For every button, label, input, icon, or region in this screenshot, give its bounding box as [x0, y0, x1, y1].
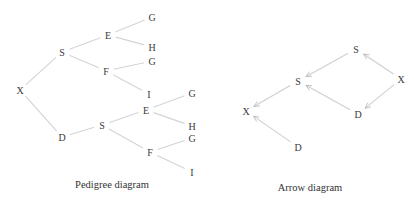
pedigree-edge [157, 155, 185, 168]
arrow-edge [365, 85, 394, 109]
arrow-node-d: D [354, 109, 361, 120]
pedigree-node-e: E [143, 105, 149, 116]
pedigree-edge [158, 141, 185, 150]
pedigree-node-h: H [188, 121, 195, 132]
arrow-caption: Arrow diagram [278, 182, 342, 193]
arrow-edges [253, 53, 394, 142]
arrow-node-x: X [242, 106, 250, 117]
pedigree-node-g: G [188, 88, 195, 99]
pedigree-edges [25, 20, 184, 169]
arrow-nodes: SXSDXD [242, 44, 405, 153]
arrow-node-d: D [294, 142, 301, 153]
arrow-edge [306, 53, 348, 76]
pedigree-node-f: F [147, 147, 153, 158]
arrow-node-s: S [295, 76, 301, 87]
pedigree-edge [70, 38, 101, 49]
pedigree-edge [110, 113, 139, 123]
arrow-edge [254, 85, 290, 106]
pedigree-node-g: G [188, 133, 195, 144]
pedigree-edge [115, 20, 144, 32]
arrow-node-x: X [397, 74, 405, 85]
pedigree-node-f: F [103, 66, 109, 77]
pedigree-edge [114, 63, 144, 70]
pedigree-node-h: H [148, 42, 155, 53]
pedigree-node-e: E [105, 30, 111, 41]
arrow-edge [306, 85, 350, 109]
pedigree-node-s: S [59, 47, 65, 58]
pedigree-node-s: S [99, 120, 105, 131]
arrow-edge [363, 54, 393, 74]
pedigree-edge [113, 75, 142, 90]
pedigree-edge [70, 127, 95, 134]
pedigree-node-g: G [148, 56, 155, 67]
diagram-canvas: XSEGHFGIDSEGHFGI SXSDXD Pedigree diagram… [0, 0, 414, 203]
pedigree-node-i: I [190, 167, 193, 178]
pedigree-edge [116, 37, 145, 45]
pedigree-node-x: X [16, 85, 24, 96]
pedigree-nodes: XSEGHFGIDSEGHFGI [16, 12, 195, 178]
pedigree-caption: Pedigree diagram [75, 179, 149, 190]
pedigree-edge [25, 96, 56, 131]
pedigree-edge [109, 129, 143, 148]
pedigree-edge [69, 55, 98, 68]
pedigree-edge [26, 57, 56, 84]
arrow-edge [253, 116, 290, 142]
pedigree-node-i: I [147, 89, 150, 100]
pedigree-node-g: G [148, 12, 155, 23]
pedigree-edge [154, 113, 185, 124]
pedigree-node-d: D [58, 132, 65, 143]
arrow-node-s: S [353, 44, 359, 55]
pedigree-edge [154, 96, 185, 107]
